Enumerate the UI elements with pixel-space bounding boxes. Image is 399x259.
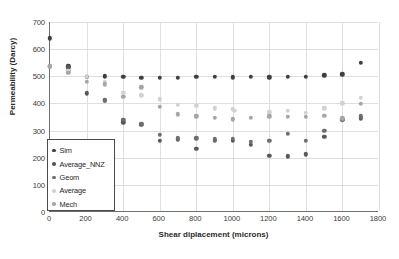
data-point <box>212 106 216 110</box>
legend-marker-icon <box>52 149 56 153</box>
data-point <box>194 136 198 140</box>
legend-marker-icon <box>52 202 56 206</box>
data-point <box>84 80 88 84</box>
data-point <box>285 75 289 79</box>
x-axis-title: Shear diplacement (microns) <box>49 230 378 239</box>
legend-item[interactable]: Geom <box>52 171 114 184</box>
chart-legend: SimAverage_NNZGeomAverageMech <box>47 139 115 211</box>
data-point <box>322 134 326 138</box>
legend-item[interactable]: Mech <box>52 198 114 211</box>
data-point <box>176 75 180 79</box>
data-point <box>359 96 363 100</box>
x-axis-tick-label: 1800 <box>370 214 387 223</box>
data-point <box>267 114 271 118</box>
data-point <box>66 71 70 75</box>
data-point <box>103 82 107 86</box>
x-axis-tick-label: 0 <box>47 214 51 223</box>
y-axis-tick-label: 200 <box>33 153 45 162</box>
data-point <box>249 75 253 79</box>
x-axis-tick-label: 1000 <box>224 214 241 223</box>
data-point <box>176 112 180 116</box>
gridline-vertical <box>160 22 161 211</box>
data-point <box>157 97 161 101</box>
y-axis-tick-label: 300 <box>33 126 45 135</box>
y-axis-tick-label: 600 <box>33 45 45 54</box>
x-axis-tick-label: 1600 <box>333 214 350 223</box>
gridline-vertical <box>123 22 124 211</box>
legend-marker-icon <box>52 162 56 166</box>
gridline-horizontal <box>50 103 378 104</box>
data-point <box>231 75 235 79</box>
data-point <box>212 75 216 79</box>
data-point <box>285 132 289 136</box>
gridline-horizontal <box>50 131 378 132</box>
data-point <box>304 74 308 78</box>
data-point <box>359 61 363 65</box>
data-point <box>139 85 143 89</box>
data-point <box>304 115 308 119</box>
data-point <box>231 117 235 121</box>
legend-item-label: Mech <box>60 200 77 209</box>
data-point <box>267 139 271 143</box>
data-point <box>304 139 308 143</box>
data-point <box>84 91 88 95</box>
y-axis-tick-label: 700 <box>33 18 45 27</box>
data-point <box>139 93 143 97</box>
legend-item[interactable]: Average_NNZ <box>52 157 114 170</box>
legend-item-label: Sim <box>60 146 72 155</box>
x-axis-tick-label: 400 <box>116 214 128 223</box>
data-point <box>232 109 236 113</box>
data-point <box>359 102 363 106</box>
x-axis-tick-label: 800 <box>189 214 201 223</box>
gridline-horizontal <box>50 22 378 23</box>
data-point <box>157 132 161 136</box>
data-point <box>103 98 107 102</box>
y-axis-tick-label: 100 <box>33 180 45 189</box>
data-point <box>267 75 271 79</box>
legend-item[interactable]: Sim <box>52 144 114 157</box>
legend-item-label: Average_NNZ <box>60 160 105 169</box>
legend-item[interactable]: Average <box>52 184 114 197</box>
y-axis-tick-label: 500 <box>33 72 45 81</box>
data-point <box>157 104 161 108</box>
x-axis-tick-label: 200 <box>79 214 91 223</box>
legend-item-label: Geom <box>60 173 80 182</box>
y-axis-tick-label: 0 <box>41 208 45 217</box>
x-axis-tick-labels: 020040060080010001200140016001800 <box>49 214 378 228</box>
data-point <box>176 103 180 107</box>
data-point <box>194 75 198 79</box>
data-point <box>285 109 289 113</box>
data-point <box>157 75 161 79</box>
y-axis-title: Permeability (Darcy) <box>8 18 17 136</box>
data-point <box>121 75 125 79</box>
data-point <box>285 115 289 119</box>
data-point <box>121 94 125 98</box>
legend-marker-icon <box>52 176 56 180</box>
data-point <box>322 128 326 132</box>
data-point <box>304 152 308 156</box>
data-point <box>194 103 198 107</box>
y-axis-tick-label: 400 <box>33 99 45 108</box>
gridline-vertical <box>379 22 380 211</box>
data-point <box>139 76 143 80</box>
x-axis-tick-label: 600 <box>152 214 164 223</box>
data-point <box>322 106 326 110</box>
data-point <box>103 74 107 78</box>
data-point <box>340 101 344 105</box>
data-point <box>212 116 216 120</box>
data-point <box>48 64 52 68</box>
data-point <box>194 147 198 151</box>
data-point <box>194 114 198 118</box>
y-axis-tick-labels: 0100200300400500600700 <box>24 22 45 212</box>
chart-figure: Permeability (Darcy) 0100200300400500600… <box>0 0 399 259</box>
data-point <box>322 113 326 117</box>
legend-item-label: Average <box>60 186 86 195</box>
data-point <box>249 116 253 120</box>
legend-marker-icon <box>52 189 56 193</box>
data-point <box>157 139 161 143</box>
gridline-horizontal <box>50 49 378 50</box>
x-axis-tick-label: 1200 <box>260 214 277 223</box>
data-point <box>48 36 52 40</box>
x-axis-tick-label: 1400 <box>297 214 314 223</box>
